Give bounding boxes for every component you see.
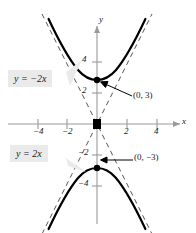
leader-arrowhead-upper [101, 82, 109, 88]
origin-marker [93, 119, 101, 129]
y-axis-label: y [99, 14, 103, 24]
y-axis-arrow [94, 26, 100, 33]
y-tick-label--2: −2 [78, 147, 89, 157]
x-tick-label--2: −2 [62, 126, 73, 136]
x-tick-label-4: 4 [154, 126, 159, 136]
asymptote-label-positive: y = 2x [10, 145, 48, 162]
asymptote-label-negative: y = −2x [8, 70, 52, 87]
y-tick-label-4: 4 [82, 54, 87, 64]
graph-canvas [0, 0, 196, 233]
x-axis-label: x [182, 116, 186, 126]
callout-tail-lower [66, 158, 86, 172]
vertex-label-lower: (0, −3) [134, 152, 159, 162]
vertex-label-upper: (0, 3) [133, 90, 153, 100]
hyperbola-figure: −4 −2 2 4 4 2 −2 −4 x y y = −2x y = 2x (… [0, 0, 196, 233]
y-tick-label--4: −4 [78, 178, 89, 188]
x-axis-arrow [173, 121, 180, 127]
leader-arrows [101, 82, 134, 164]
y-tick-label-2: 2 [82, 85, 87, 95]
vertex-marker-upper [94, 77, 100, 83]
leader-arrowhead-lower [101, 157, 108, 163]
x-tick-label--4: −4 [33, 126, 44, 136]
vertex-marker-lower [94, 165, 100, 171]
leader-line-upper [103, 83, 132, 96]
x-tick-label-2: 2 [124, 126, 129, 136]
